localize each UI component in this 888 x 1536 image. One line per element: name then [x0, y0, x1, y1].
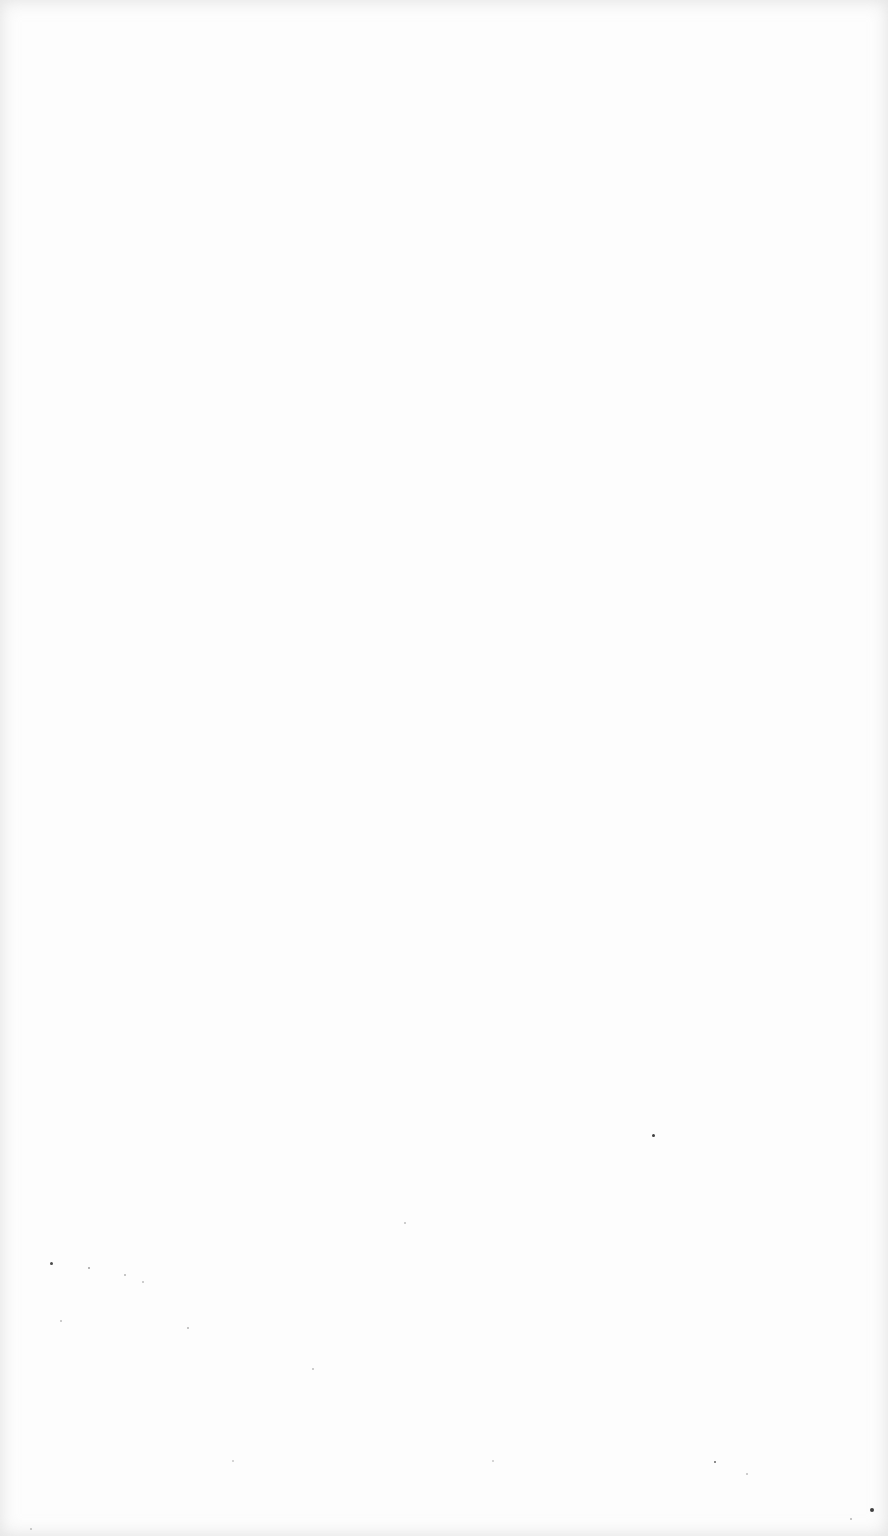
dust-speck: [850, 1518, 852, 1520]
dust-speck: [187, 1327, 189, 1329]
dust-speck: [124, 1274, 126, 1276]
dust-speck: [746, 1473, 748, 1475]
dust-speck: [492, 1460, 494, 1462]
dust-speck: [232, 1460, 234, 1462]
dust-speck: [60, 1320, 62, 1322]
dust-speck: [714, 1461, 716, 1463]
dust-speck: [88, 1267, 90, 1269]
dust-speck: [50, 1262, 53, 1265]
dust-speck: [30, 1528, 32, 1530]
dust-speck: [870, 1508, 874, 1512]
dust-speck: [142, 1281, 144, 1283]
blank-page: [0, 0, 888, 1536]
dust-speck: [404, 1222, 406, 1224]
dust-speck: [652, 1134, 655, 1137]
dust-speck: [312, 1368, 314, 1370]
